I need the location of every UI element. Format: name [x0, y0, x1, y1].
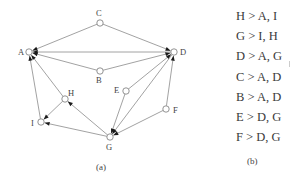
- dependency-graph: ABCDEFGHI (a): [0, 0, 230, 178]
- node-label-B: B: [96, 75, 102, 85]
- node-F: [163, 106, 169, 112]
- node-E: [123, 88, 129, 94]
- node-label-G: G: [106, 142, 112, 152]
- node-C: [97, 20, 103, 26]
- rule-item: F > D, G: [236, 127, 282, 147]
- scan-mark: [289, 61, 290, 67]
- node-D: [171, 49, 177, 55]
- edge-D-G: [112, 55, 172, 134]
- rule-item: H > A, I: [236, 6, 282, 26]
- rule-list: H > A, I G > I, H D > A, G C > A, D B > …: [236, 6, 282, 147]
- edge-H-I: [44, 101, 63, 119]
- edge-B-A: [33, 53, 97, 70]
- node-A: [26, 49, 32, 55]
- node-label-E: E: [114, 85, 119, 95]
- edge-G-I: [45, 123, 107, 137]
- node-label-A: A: [18, 47, 25, 57]
- caption-a: (a): [96, 162, 106, 172]
- rule-item: G > I, H: [236, 26, 282, 46]
- rule-item: E > D, G: [236, 107, 282, 127]
- rule-item: B > A, D: [236, 87, 282, 107]
- node-I: [38, 119, 44, 125]
- edge-F-D: [166, 56, 173, 106]
- edge-C-A: [32, 24, 97, 50]
- edge-B-D: [103, 53, 170, 70]
- node-label-H: H: [68, 88, 74, 98]
- node-label-I: I: [31, 118, 34, 128]
- rule-item: D > A, G: [236, 46, 282, 66]
- node-B: [97, 68, 103, 74]
- edge-E-G: [111, 94, 125, 133]
- node-label-F: F: [173, 105, 178, 115]
- node-label-C: C: [96, 8, 102, 18]
- node-label-D: D: [180, 47, 186, 57]
- edge-C-D: [103, 24, 171, 50]
- caption-b: (b): [247, 156, 258, 166]
- rule-item: C > A, D: [236, 67, 282, 87]
- edge-G-H: [68, 101, 108, 135]
- edge-H-A: [31, 55, 63, 97]
- node-G: [107, 134, 113, 140]
